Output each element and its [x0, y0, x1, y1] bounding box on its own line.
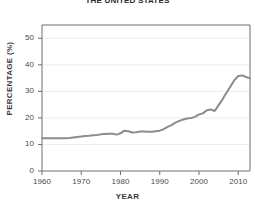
y-tick-label: 50: [16, 33, 34, 42]
y-tick-label: 20: [16, 113, 34, 122]
chart-container: THE UNITED STATES PERCENTAGE (%) YEAR 01…: [0, 0, 255, 206]
y-tick-label: 40: [16, 60, 34, 69]
x-tick-label: 2010: [223, 177, 253, 186]
x-tick-label: 1990: [145, 177, 175, 186]
x-tick-label: 1960: [27, 177, 57, 186]
x-tick-label: 2000: [184, 177, 214, 186]
x-tick-label: 1980: [105, 177, 135, 186]
y-tick-label: 0: [16, 166, 34, 175]
data-series-line: [42, 75, 250, 138]
plot-area: [0, 0, 255, 206]
y-tick-label: 10: [16, 139, 34, 148]
x-tick-label: 1970: [66, 177, 96, 186]
axis-frame: [42, 25, 250, 171]
tick-marks: [38, 38, 238, 175]
y-tick-label: 30: [16, 86, 34, 95]
gridlines: [42, 38, 250, 144]
